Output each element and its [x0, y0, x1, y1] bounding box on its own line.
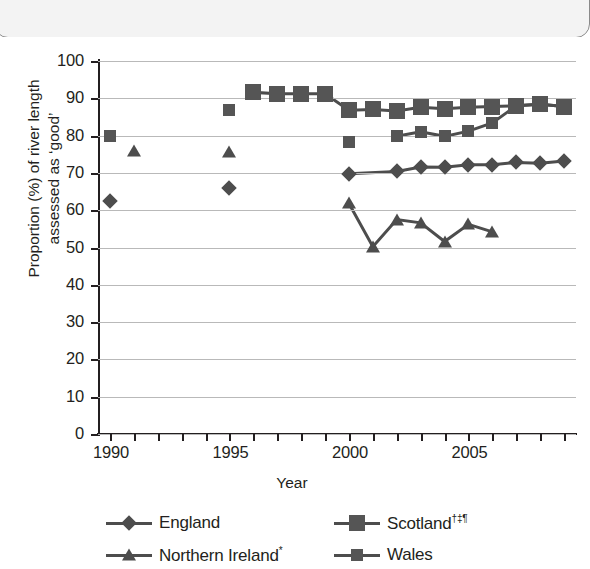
y-tick-10 — [91, 397, 98, 399]
y-tick-100 — [91, 61, 98, 63]
x-tick-2007 — [516, 434, 518, 441]
y-tick-label-20: 20 — [0, 349, 84, 368]
x-tick-1991 — [134, 434, 136, 441]
x-tick-2009 — [564, 434, 566, 441]
y-tick-label-50: 50 — [0, 238, 84, 257]
data-point-wales-2009 — [558, 101, 570, 113]
y-tick-label-0: 0 — [0, 424, 84, 443]
y-tick-20 — [91, 359, 98, 361]
data-point-wales-1990 — [104, 130, 116, 142]
y-tick-label-90: 90 — [0, 88, 84, 107]
x-tick-label-1990: 1990 — [93, 443, 129, 462]
x-tick-1998 — [301, 434, 303, 441]
data-point-northern-ireland--2002 — [390, 213, 404, 225]
data-point-scotland-1998 — [293, 86, 309, 102]
data-point-wales-2004 — [439, 130, 451, 142]
header-band-mask — [0, 37, 584, 51]
x-tick-2006 — [492, 434, 494, 441]
x-axis-title: Year — [0, 474, 584, 492]
data-point-northern-ireland--2001 — [366, 240, 380, 252]
data-point-northern-ireland--1995 — [222, 146, 236, 158]
data-point-wales-2006 — [486, 117, 498, 129]
x-tick-2000 — [349, 434, 351, 441]
y-tick-50 — [91, 248, 98, 250]
plot-area — [98, 61, 576, 434]
data-point-wales-2002 — [391, 130, 403, 142]
gridline-y-50 — [98, 248, 576, 249]
data-point-scotland-2005 — [460, 99, 476, 115]
legend-label: Northern Ireland* — [159, 545, 282, 566]
data-point-northern-ireland--2000 — [342, 197, 356, 209]
y-tick-0 — [91, 434, 98, 436]
x-tick-1994 — [206, 434, 208, 441]
y-tick-label-70: 70 — [0, 163, 84, 182]
legend-marker-square-large-icon — [349, 515, 365, 531]
y-tick-80 — [91, 136, 98, 138]
y-tick-90 — [91, 98, 98, 100]
legend-marker-diamond-icon — [121, 515, 137, 531]
x-tick-2008 — [540, 434, 542, 441]
y-tick-label-100: 100 — [0, 51, 84, 70]
data-point-wales-2007 — [510, 100, 522, 112]
x-tick-2003 — [421, 434, 423, 441]
gridline-y-20 — [98, 359, 576, 360]
gridline-y-80 — [98, 136, 576, 137]
legend-label: Scotland†‡¶ — [387, 513, 467, 534]
data-point-northern-ireland--2003 — [414, 216, 428, 228]
data-point-scotland-2004 — [437, 101, 453, 117]
y-tick-label-60: 60 — [0, 200, 84, 219]
legend-item-wales[interactable]: Wales — [334, 545, 506, 565]
data-point-wales-1995 — [223, 104, 235, 116]
legend-item-northern-ireland[interactable]: Northern Ireland* — [106, 545, 334, 566]
gridline-y-90 — [98, 98, 576, 99]
data-point-scotland-1997 — [269, 86, 285, 102]
legend-swatch — [334, 547, 380, 563]
header-band — [0, 0, 590, 38]
gridline-y-10 — [98, 397, 576, 398]
gridline-y-0 — [98, 434, 576, 435]
x-tick-2002 — [397, 434, 399, 441]
x-tick-2005 — [468, 434, 470, 441]
data-point-northern-ireland--1991 — [127, 144, 141, 156]
y-tick-40 — [91, 285, 98, 287]
x-tick-1995 — [229, 434, 231, 441]
y-tick-label-80: 80 — [0, 126, 84, 145]
y-tick-label-10: 10 — [0, 387, 84, 406]
data-point-northern-ireland--2005 — [461, 218, 475, 230]
data-point-northern-ireland--2004 — [438, 235, 452, 247]
gridline-y-60 — [98, 210, 576, 211]
x-tick-1999 — [325, 434, 327, 441]
legend-swatch — [106, 547, 152, 563]
gridline-y-30 — [98, 322, 576, 323]
x-tick-1992 — [158, 434, 160, 441]
chart-legend: EnglandScotland†‡¶Northern Ireland*Wales — [106, 507, 506, 569]
legend-label-footnote: * — [279, 545, 283, 556]
x-tick-label-2005: 2005 — [451, 443, 487, 462]
y-tick-60 — [91, 210, 98, 212]
legend-label: Wales — [387, 545, 433, 565]
x-tick-label-2000: 2000 — [332, 443, 368, 462]
data-point-wales-2003 — [415, 126, 427, 138]
data-point-northern-ireland--2006 — [485, 225, 499, 237]
data-point-scotland-2003 — [413, 99, 429, 115]
legend-swatch — [334, 515, 380, 531]
legend-marker-square-small-icon — [351, 549, 363, 561]
x-tick-label-1995: 1995 — [212, 443, 248, 462]
gridline-y-40 — [98, 285, 576, 286]
x-tick-1990 — [110, 434, 112, 441]
data-point-scotland-1996 — [245, 84, 261, 100]
data-point-wales-2005 — [462, 125, 474, 137]
legend-item-england[interactable]: England — [106, 513, 334, 533]
gridline-y-70 — [98, 173, 576, 174]
x-tick-2001 — [373, 434, 375, 441]
y-tick-70 — [91, 173, 98, 175]
legend-item-scotland[interactable]: Scotland†‡¶ — [334, 513, 506, 534]
data-point-scotland-2006 — [484, 99, 500, 115]
legend-label-footnote: †‡¶ — [452, 513, 468, 524]
data-point-scotland-2002 — [389, 103, 405, 119]
data-point-scotland-2000 — [341, 102, 357, 118]
x-tick-1996 — [253, 434, 255, 441]
y-tick-30 — [91, 322, 98, 324]
legend-swatch — [106, 515, 152, 531]
